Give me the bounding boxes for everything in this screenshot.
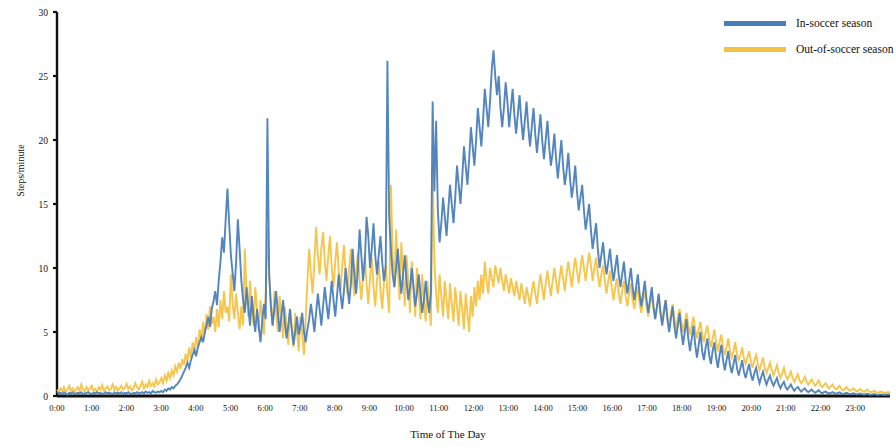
x-tick-label: 5:00 [223,403,238,413]
chart-svg: 0510152025300:001:002:003:004:005:006:00… [0,0,896,447]
x-tick-label: 12:00 [464,403,484,413]
x-tick-label: 22:00 [811,403,831,413]
x-tick-label: 3:00 [153,403,168,413]
legend-label-in-season: In-soccer season [796,17,872,29]
x-tick-label: 16:00 [603,403,623,413]
x-tick-label: 7:00 [292,403,307,413]
x-axis-title: Time of The Day [0,428,896,440]
x-tick-label: 18:00 [672,403,692,413]
series-line-out-season [57,166,890,394]
y-tick-label: 5 [43,328,48,338]
x-tick-label: 11:00 [429,403,448,413]
x-tick-label: 9:00 [362,403,377,413]
x-tick-label: 15:00 [568,403,588,413]
x-tick-label: 8:00 [327,403,342,413]
x-tick-label: 14:00 [533,403,553,413]
legend-swatch-out-season [724,47,786,52]
y-tick-label: 10 [39,264,49,274]
y-tick-label: 15 [39,200,49,210]
x-tick-label: 4:00 [188,403,203,413]
y-tick-label: 25 [39,72,49,82]
x-tick-label: 19:00 [707,403,727,413]
x-tick-label: 1:00 [84,403,99,413]
x-tick-label: 20:00 [741,403,761,413]
legend-item-out-season: Out-of-soccer season [724,36,896,62]
x-tick-label: 10:00 [394,403,414,413]
series-line-in-season [57,50,890,395]
x-tick-label: 6:00 [258,403,273,413]
x-tick-label: 2:00 [119,403,134,413]
y-tick-label: 30 [39,8,49,18]
legend-label-out-season: Out-of-soccer season [796,43,893,55]
x-tick-label: 21:00 [776,403,796,413]
y-axis-title: Steps/minute [15,121,26,221]
x-tick-label: 0:00 [49,403,64,413]
legend-item-in-season: In-soccer season [724,10,896,36]
x-tick-label: 17:00 [637,403,657,413]
legend-swatch-in-season [724,21,786,26]
chart-figure: 0510152025300:001:002:003:004:005:006:00… [0,0,896,447]
y-tick-label: 20 [39,136,49,146]
x-tick-label: 13:00 [498,403,518,413]
chart-legend: In-soccer season Out-of-soccer season [724,10,896,62]
y-tick-label: 0 [43,392,48,402]
x-tick-label: 23:00 [846,403,866,413]
